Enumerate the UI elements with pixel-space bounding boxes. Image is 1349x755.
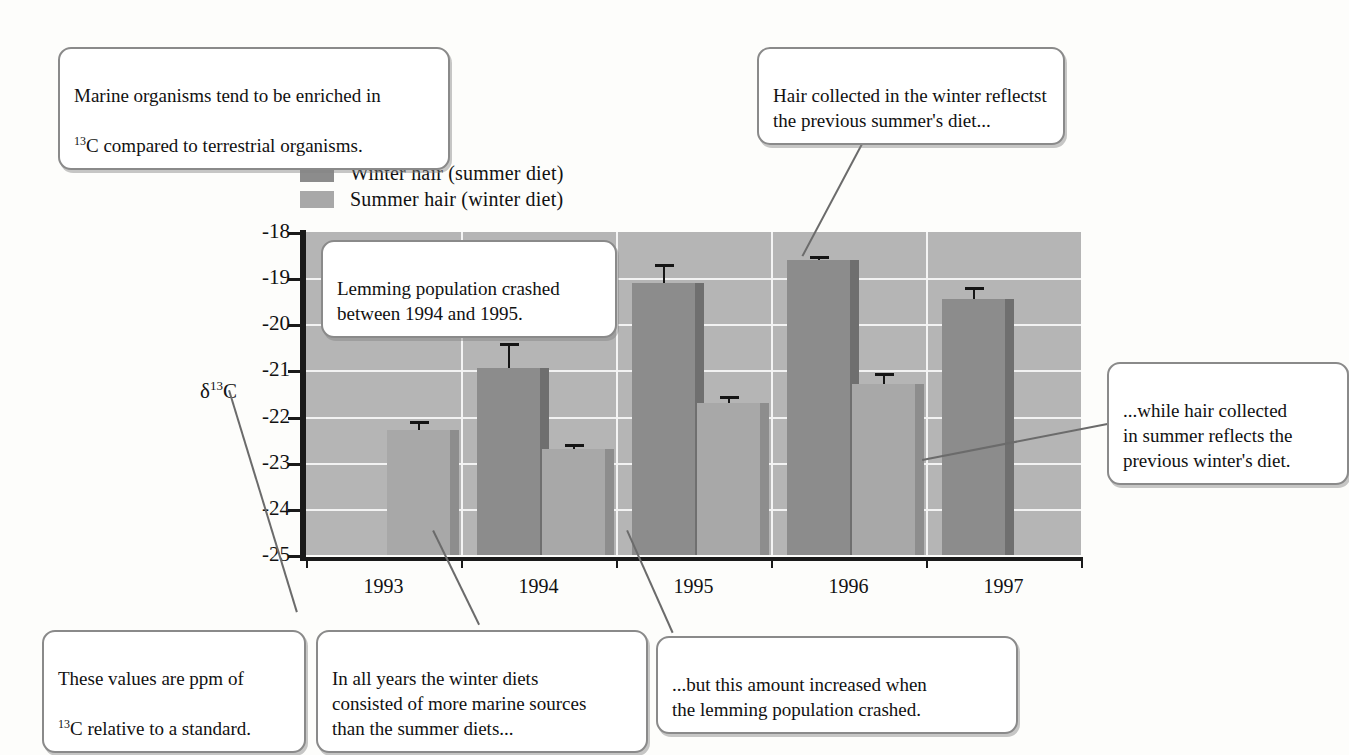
bar-side [760,403,769,555]
x-tick-label-1997: 1997 [984,575,1024,598]
x-tick [616,557,618,568]
y-axis-title-superscript: 13 [210,378,223,393]
bar-1996-summer-hair [852,384,924,555]
bar-face [477,368,540,555]
x-tick [1081,557,1083,568]
error-bar-cap [500,343,519,346]
error-bar-cap [565,444,584,447]
x-axis: 19931994199519961997 [300,557,1082,561]
error-bar-cap [810,256,829,259]
error-bar-stem [508,343,510,368]
legend-swatch-summer-hair [300,191,334,208]
error-bar-cap [965,287,984,290]
x-tick-label-1993: 1993 [364,575,404,598]
x-tick [771,557,773,568]
callout-increased-text: ...but this amount increased when the le… [672,674,927,720]
callout-winter-hair-text: Hair collected in the winter reflectst t… [773,85,1047,131]
bar-side [1005,299,1014,555]
bar-side [605,449,614,555]
callout-ppm-standard: These values are ppm of 13C relative to … [42,630,306,753]
callout-lemming-crash: Lemming population crashed between 1994 … [321,240,617,338]
callout-marine-organisms: Marine organisms tend to be enriched in … [58,47,450,170]
bar-face [632,283,695,555]
x-tick [461,557,463,568]
y-tick-label: -23 [262,450,290,475]
y-tick-label: -20 [262,311,290,336]
y-tick-label: -21 [262,357,290,382]
callout-marine-line2: C compared to terrestrial organisms. [86,135,363,156]
bar-face [387,430,450,555]
bar-side [450,430,459,555]
bar-face [542,449,605,555]
y-tick-label: -19 [262,265,290,290]
error-bar-cap [875,373,894,376]
x-tick-label-1996: 1996 [829,575,869,598]
category-separator [771,232,773,555]
bar-face [942,299,1005,555]
bar-1996-winter-hair [787,260,859,555]
callout-amount-increased: ...but this amount increased when the le… [656,636,1018,734]
bar-1993-summer-hair [387,430,459,555]
category-separator [926,232,928,555]
bar-1994-winter-hair [477,368,549,555]
callout-ppm-superscript: 13 [58,717,70,731]
bar-face [697,403,760,555]
x-tick [926,557,928,568]
error-bar-cap [720,396,739,399]
x-tick-label-1995: 1995 [674,575,714,598]
y-axis: -18-19-20-21-22-23-24-25 [300,230,306,557]
error-bar-cap [655,264,674,267]
callout-lemming-text: Lemming population crashed between 1994 … [337,278,560,324]
callout-summer-hair-text: ...while hair collected in summer reflec… [1123,400,1292,471]
bar-side [915,384,924,555]
bar-1994-summer-hair [542,449,614,555]
callout-winter-diets-marine: In all years the winter diets consisted … [316,630,648,753]
callout-marine-superscript: 13 [74,134,86,148]
bar-1995-summer-hair [697,403,769,555]
error-bar-cap [410,421,429,424]
bar-face [787,260,850,555]
legend-label-summer-hair: Summer hair (winter diet) [350,188,563,211]
callout-marine-line1: Marine organisms tend to be enriched in [74,85,381,106]
callout-ppm-line2: C relative to a standard. [70,718,251,739]
x-tick-label-1994: 1994 [519,575,559,598]
bar-face [852,384,915,555]
y-tick-label: -22 [262,404,290,429]
x-tick [306,557,308,568]
bar-1997-winter-hair [942,299,1014,555]
y-axis-title-delta: δ [200,379,210,403]
callout-summer-hair-reflects: ...while hair collected in summer reflec… [1107,362,1349,485]
callout-ppm-line1: These values are ppm of [58,668,244,689]
y-tick-label: -18 [262,219,290,244]
bar-1995-winter-hair [632,283,704,555]
callout-winter-hair-reflects: Hair collected in the winter reflectst t… [757,47,1065,145]
callout-winter-diets-text: In all years the winter diets consisted … [332,668,586,739]
legend-item-summer-hair: Summer hair (winter diet) [300,186,564,212]
